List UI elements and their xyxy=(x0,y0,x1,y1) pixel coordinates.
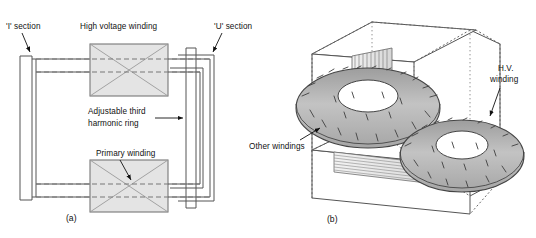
label-third-harmonic-ring-line2: harmonic ring xyxy=(88,119,139,129)
figure-container: 'I' section High voltage winding 'U' sec… xyxy=(0,0,536,238)
toroid-right-hole xyxy=(436,131,488,159)
toroid-left-hole xyxy=(338,80,398,112)
label-other-windings: Other windings xyxy=(249,142,305,152)
label-primary-winding: Primary winding xyxy=(96,149,155,159)
caption-panel-b: (b) xyxy=(327,214,338,224)
label-u-section: 'U' section xyxy=(214,22,252,32)
label-hv-winding-3d-line1: H.V. xyxy=(498,64,514,74)
caption-panel-a: (a) xyxy=(66,213,77,223)
label-third-harmonic-ring-line1: Adjustable third xyxy=(88,107,146,117)
label-hv-winding: High voltage winding xyxy=(80,22,157,32)
label-i-section: 'I' section xyxy=(6,22,41,32)
label-hv-winding-3d-line2: winding xyxy=(490,75,518,85)
panel-b-drawing xyxy=(0,0,536,238)
